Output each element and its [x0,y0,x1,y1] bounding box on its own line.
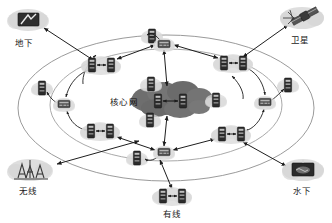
single-node-right-edge [277,78,299,93]
label-underwater: 水下 [293,184,312,196]
pair-node-bottom-left [80,122,120,141]
hub-node-bottom [153,146,175,160]
single-node-lower-center [126,151,148,166]
label-wired: 有线 [163,207,182,219]
underground-icon [7,9,49,31]
link-hubbottom-to-pairbottomleft [117,137,155,150]
link-hubbottom-to-pairbottomright [173,139,215,150]
hub-node-top [153,38,175,52]
arc-pairtopright-to-hubright [247,68,265,95]
link-hubtop-to-core [164,50,167,86]
link-satellite-to-ring [243,25,288,57]
pair-node-top-right [213,54,253,73]
link-hubbottom-to-core [164,116,167,146]
hub-node-left [53,98,75,112]
link-wired-to-ring [160,160,172,189]
single-node-mid-upper [140,77,162,92]
satellite-icon [280,6,324,29]
network-topology-diagram [0,0,332,223]
core-network-label: 核心网 [110,95,138,107]
arc-core-right-curve [232,76,243,99]
label-wireless: 无线 [19,184,38,196]
link-underground-to-ring [44,28,93,60]
core-node-right [179,94,186,108]
hub-node-right [254,96,276,110]
submarine-icon [282,159,324,181]
label-underground: 地下 [15,36,34,48]
server-pair-icon [152,187,192,206]
link-hubtop-to-pairtopright [174,45,218,58]
arc-hubright-to-pairbottomright [245,109,264,131]
pair-node-bottom-right [211,125,251,144]
link-hubtop-to-pairtopleft [117,45,155,59]
label-satellite: 卫星 [291,33,310,45]
pair-node-top-left [81,56,121,75]
antenna-icon [7,159,53,181]
single-node-left-edge [31,81,53,96]
core-node-left [154,94,161,108]
